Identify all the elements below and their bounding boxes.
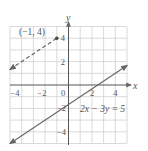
x-tick-label: 2 [90,88,94,98]
y-tick-label: −4 [57,127,67,137]
x-tick-label: 0 [61,88,65,98]
x-tick-label: 4 [113,88,118,98]
coordinate-plane: y x −4 −2 0 2 4 4 2 −2 −4 (−1, 4) 2x − 3… [0,0,148,151]
x-tick-label: −4 [10,88,20,98]
y-tick-label: 2 [61,57,65,67]
y-tick-label: −2 [57,103,66,113]
point-label: (−1, 4) [19,27,45,38]
x-axis-label: x [132,80,138,91]
y-axis-label: y [65,12,71,23]
equation-label: 2x − 3y = 5 [80,104,125,114]
point-marker [55,36,59,40]
x-tick-label: −2 [37,88,46,98]
